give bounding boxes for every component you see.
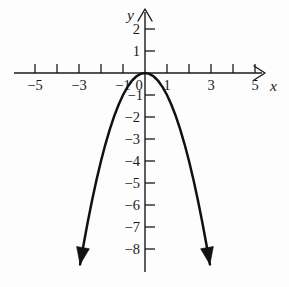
- y-tick-label-neg3: −3: [125, 131, 140, 147]
- x-tick-label-3: 3: [207, 77, 214, 93]
- y-axis-ticks: [145, 29, 155, 249]
- y-tick-label-neg1: −1: [128, 87, 143, 103]
- curve-right-arrowhead-icon: [201, 247, 214, 265]
- curve-left-arrowhead-icon: [77, 247, 90, 265]
- coordinate-plane: −5 −3 −1 1 3 5 0 2 1 −1 −2 −3 −4 −5 −6 −…: [0, 0, 289, 287]
- y-tick-label-2: 2: [133, 21, 140, 37]
- y-tick-label-neg5: −5: [125, 175, 140, 191]
- graph-figure: −5 −3 −1 1 3 5 0 2 1 −1 −2 −3 −4 −5 −6 −…: [0, 0, 289, 287]
- x-tick-label-neg3: −3: [71, 77, 86, 93]
- y-tick-label-neg7: −7: [125, 219, 140, 235]
- y-tick-label-neg6: −6: [125, 197, 140, 213]
- x-tick-label-5: 5: [251, 77, 258, 93]
- y-tick-label-neg8: −8: [125, 241, 140, 257]
- y-axis-label: y: [125, 6, 134, 23]
- x-axis-label: x: [269, 77, 277, 94]
- y-tick-label-neg4: −4: [125, 153, 141, 169]
- y-tick-label-1: 1: [133, 43, 140, 59]
- y-tick-label-neg2: −2: [125, 109, 140, 125]
- x-tick-label-neg5: −5: [27, 77, 42, 93]
